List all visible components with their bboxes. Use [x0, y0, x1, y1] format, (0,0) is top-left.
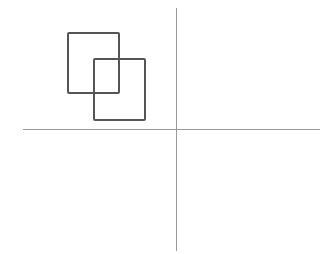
coordinate-diagram: [0, 0, 334, 254]
